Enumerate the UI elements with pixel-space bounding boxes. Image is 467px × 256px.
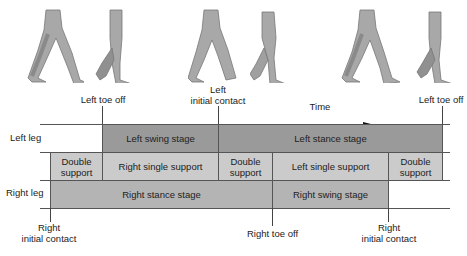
walking-leg-figure-3-icon <box>188 8 238 83</box>
right-toe-off-line <box>272 208 273 226</box>
walking-leg-figure-1-icon <box>24 8 84 83</box>
event-left-initial-contact-line2: initial contact <box>183 95 253 106</box>
event-left-initial-contact-line1: Left <box>188 84 248 95</box>
event-right-toe-off: Right toe off <box>240 228 305 239</box>
double-support-1-line2: support <box>61 167 93 178</box>
left-toe-off-1-line <box>102 106 103 124</box>
right-initial-contact-2-line <box>388 208 389 222</box>
right-stance-stage: Right stance stage <box>50 180 273 209</box>
double-support-3-line2: support <box>400 167 432 178</box>
left-initial-contact-line <box>218 106 219 124</box>
time-arrow-icon <box>275 114 375 120</box>
double-support-1: Double support <box>50 152 103 181</box>
left-swing-stage: Left swing stage <box>102 124 219 153</box>
left-single-support: Left single support <box>272 152 389 181</box>
double-support-1-line1: Double <box>61 156 91 167</box>
event-right-initial-contact-2-line1: Right <box>364 222 414 233</box>
walking-leg-figure-5-icon <box>340 8 400 83</box>
left-stance-stage: Left stance stage <box>218 124 443 153</box>
event-left-toe-off-1: Left toe off <box>78 94 128 105</box>
double-support-2-line1: Double <box>230 156 260 167</box>
row-label-left-leg: Left leg <box>10 132 41 143</box>
event-right-initial-contact-1-line1: Right <box>24 222 74 233</box>
double-support-2-line2: support <box>230 167 262 178</box>
double-support-3: Double support <box>388 152 443 181</box>
event-right-initial-contact-2-line2: initial contact <box>354 233 424 244</box>
time-label: Time <box>300 101 340 112</box>
double-support-3-line1: Double <box>400 156 430 167</box>
walking-leg-figure-4-icon <box>250 8 295 83</box>
walking-leg-figure-2-icon <box>92 8 137 83</box>
right-swing-stage: Right swing stage <box>272 180 389 209</box>
event-left-toe-off-2: Left toe off <box>416 94 466 105</box>
row-label-right-leg: Right leg <box>6 187 44 198</box>
left-toe-off-2-line <box>442 106 443 124</box>
event-right-initial-contact-1-line2: initial contact <box>14 233 84 244</box>
walking-leg-figure-6-icon <box>415 8 460 83</box>
right-single-support: Right single support <box>102 152 219 181</box>
right-initial-contact-1-line <box>50 208 51 222</box>
double-support-2: Double support <box>218 152 273 181</box>
